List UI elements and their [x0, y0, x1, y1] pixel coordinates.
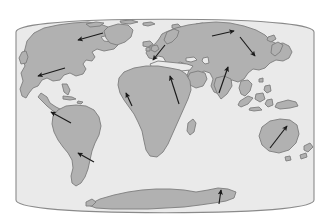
tasmania	[285, 156, 291, 161]
indonesia-java	[249, 107, 262, 111]
world-plate-motion-map: World map with tectonic plate motion vec…	[0, 0, 333, 223]
philippines-small	[259, 78, 263, 82]
map-canvas	[0, 0, 333, 223]
british-isles-small	[146, 47, 150, 51]
